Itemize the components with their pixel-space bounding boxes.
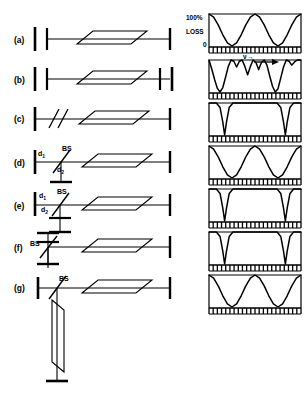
cavity-diagram-d [35,150,170,182]
loss-plot-c [209,103,301,142]
figure-canvas [0,0,308,397]
optics-figure: (a) (b) (c) (d) (e) (f) (g) d1 BS d2 d1 … [0,0,308,397]
loss-plot-g [209,275,301,314]
tilted-plate [79,111,149,124]
tilted-plate [82,197,152,210]
loss-curve [209,60,301,92]
loss-curve [209,146,301,178]
loss-curve [209,103,301,135]
loss-curve [209,275,301,307]
loss-plot-f [209,232,301,271]
loss-plot-d [209,146,301,185]
tilted-plate [82,239,152,252]
loss-curve-plots [209,14,301,314]
cavity-diagram-g [38,276,170,381]
cavity-diagram-a [35,27,170,51]
tilted-plate [82,280,152,293]
loss-plot-b [209,60,301,99]
tilted-plate [77,31,147,44]
tilted-plate [82,154,152,167]
tilted-plate-vertical [52,300,64,372]
cavity-diagram-b [35,67,172,91]
cavity-diagram-c [35,107,170,131]
loss-curve [209,14,301,46]
loss-curve [209,189,301,221]
tilted-plate [77,71,147,84]
loss-plot-e [209,189,301,228]
loss-curve [209,232,301,264]
cavity-diagram-e [35,192,170,232]
loss-plot-a [209,14,301,53]
cavity-diagram-f [37,233,170,268]
